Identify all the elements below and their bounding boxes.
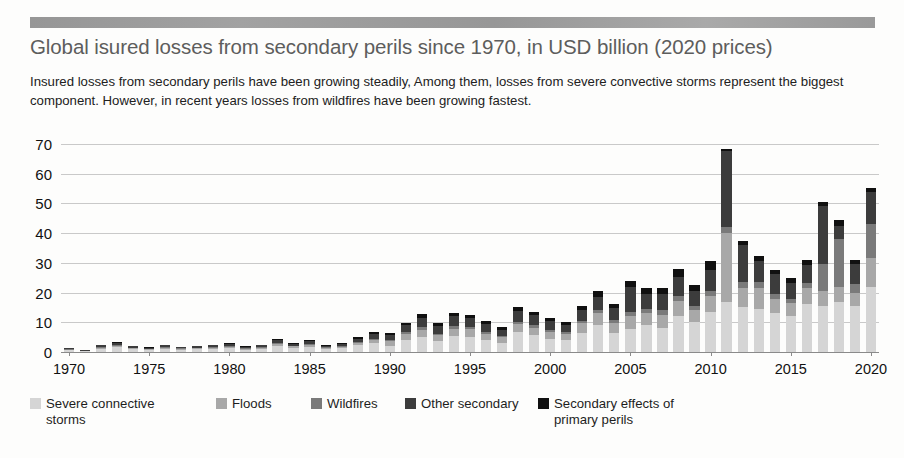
bar-1973[interactable] — [112, 342, 122, 352]
bar-1980[interactable] — [224, 343, 234, 352]
bar-segment — [866, 224, 876, 258]
x-tick-label: 2020 — [855, 361, 887, 377]
bar-1999[interactable] — [529, 312, 539, 352]
bar-segment — [577, 333, 587, 352]
legend-swatch-icon — [405, 398, 416, 409]
bar-segment — [754, 309, 764, 352]
bar-2019[interactable] — [850, 260, 860, 352]
bar-segment — [369, 343, 379, 352]
legend-item[interactable]: Wildfires — [311, 396, 378, 412]
bar-2002[interactable] — [577, 306, 587, 352]
bar-2014[interactable] — [770, 270, 780, 352]
chart-page: Global isured losses from secondary peri… — [0, 0, 904, 458]
bar-1994[interactable] — [449, 313, 459, 352]
bar-segment — [834, 302, 844, 353]
bar-segment — [850, 306, 860, 352]
legend-item[interactable]: Severe connective storms — [30, 396, 155, 428]
x-tick-label: 2000 — [534, 361, 566, 377]
bar-2011[interactable] — [721, 149, 731, 353]
bar-segment — [497, 343, 507, 353]
bar-2001[interactable] — [561, 322, 571, 352]
bar-1976[interactable] — [160, 345, 170, 352]
bar-1989[interactable] — [369, 332, 379, 352]
bar-2000[interactable] — [545, 318, 555, 352]
bar-segment — [433, 326, 443, 333]
bar-segment — [738, 245, 748, 282]
bar-segment — [481, 324, 491, 332]
bar-1992[interactable] — [417, 314, 427, 352]
bar-1988[interactable] — [353, 337, 363, 352]
bar-2005[interactable] — [625, 281, 635, 352]
bar-segment — [449, 336, 459, 352]
legend-item[interactable]: Other secondary — [405, 396, 519, 412]
bar-segment — [673, 277, 683, 296]
bar-2008[interactable] — [673, 269, 683, 352]
bar-segment — [433, 341, 443, 352]
bar-segment — [705, 261, 715, 269]
bar-1972[interactable] — [96, 345, 106, 352]
bar-2004[interactable] — [609, 304, 619, 352]
bar-1990[interactable] — [385, 333, 395, 352]
bar-2013[interactable] — [754, 256, 764, 352]
x-axis: 1970197519801985199019952000200520102015… — [61, 352, 879, 353]
y-tick-label: 60 — [35, 165, 52, 182]
bar-1979[interactable] — [208, 345, 218, 352]
bar-2015[interactable] — [786, 278, 796, 352]
bar-1983[interactable] — [272, 339, 282, 352]
bar-segment — [593, 325, 603, 352]
bar-2012[interactable] — [738, 241, 748, 352]
bar-1998[interactable] — [513, 307, 523, 352]
bar-segment — [866, 192, 876, 225]
legend-label: Wildfires — [327, 396, 378, 412]
bar-2009[interactable] — [689, 285, 699, 352]
x-tick-label: 1995 — [454, 361, 486, 377]
x-tick-label: 1985 — [293, 361, 325, 377]
bar-2020[interactable] — [866, 188, 876, 352]
bar-segment — [802, 265, 812, 283]
bar-2006[interactable] — [641, 288, 651, 352]
bar-segment — [754, 261, 764, 282]
bar-segment — [465, 337, 475, 352]
bar-1991[interactable] — [401, 323, 411, 352]
bar-2003[interactable] — [593, 291, 603, 352]
bar-1985[interactable] — [304, 340, 314, 352]
bar-2017[interactable] — [818, 202, 828, 352]
bar-1982[interactable] — [256, 345, 266, 352]
bar-2007[interactable] — [657, 288, 667, 352]
bar-1996[interactable] — [481, 321, 491, 352]
bar-1987[interactable] — [337, 343, 347, 352]
bar-2018[interactable] — [834, 220, 844, 352]
bar-segment — [545, 332, 555, 339]
bar-segment — [641, 325, 651, 352]
bar-segment — [609, 308, 619, 320]
bar-segment — [689, 291, 699, 306]
bar-segment — [754, 288, 764, 309]
bar-segment — [802, 304, 812, 352]
bar-segment — [529, 335, 539, 352]
bar-segment — [641, 313, 651, 325]
bar-1993[interactable] — [433, 323, 443, 352]
legend-item[interactable]: Secondary effects of primary perils — [538, 396, 674, 428]
legend-swatch-icon — [30, 398, 41, 409]
plot-area: 010203040506070 197019751980198519901995… — [0, 0, 904, 458]
bar-1997[interactable] — [497, 327, 507, 352]
bar-1995[interactable] — [465, 315, 475, 352]
bar-segment — [689, 310, 699, 322]
legend-item[interactable]: Floods — [216, 396, 272, 412]
bar-1984[interactable] — [288, 343, 298, 352]
bar-segment — [641, 294, 651, 309]
x-tick-label: 1990 — [374, 361, 406, 377]
x-tick-label: 1970 — [53, 361, 85, 377]
bar-segment — [786, 316, 796, 352]
bar-segment — [673, 269, 683, 277]
bar-segment — [721, 151, 731, 227]
bar-segment — [465, 318, 475, 327]
bar-1986[interactable] — [321, 345, 331, 352]
x-tick-mark — [550, 352, 551, 356]
bar-segment — [657, 315, 667, 329]
y-tick-label: 30 — [35, 254, 52, 271]
bar-2010[interactable] — [705, 261, 715, 352]
bar-segment — [561, 325, 571, 332]
bar-segment — [818, 206, 828, 264]
bar-2016[interactable] — [802, 260, 812, 352]
